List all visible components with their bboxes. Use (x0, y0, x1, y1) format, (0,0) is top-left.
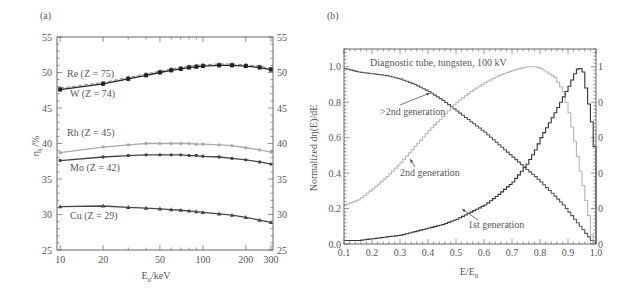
y-tick-label: 0.6 (329, 132, 342, 143)
right-y-tick-label: 40 (277, 138, 287, 149)
right-y-tick-label: 1 (598, 61, 603, 72)
y-tick-label: 25 (42, 245, 52, 256)
chart-title: Diagnostic tube, tungsten, 100 kV (370, 57, 507, 68)
series-annotation: 1st generation (468, 219, 524, 230)
x-tick-label: 0.8 (534, 247, 547, 258)
y-tick-label: 45 (42, 103, 52, 114)
y-tick-label: 0.4 (329, 168, 342, 179)
series-label: Re (Z = 75) (67, 68, 114, 80)
panel-a-label: (a) (40, 10, 51, 22)
x-tick-label: 100 (195, 254, 210, 265)
right-y-tick-label: 0 (598, 203, 603, 214)
right-y-tick-label: 0 (598, 168, 603, 179)
x-tick-label: 0.7 (506, 247, 519, 258)
y-tick-label: 1.0 (329, 61, 342, 72)
figure: (a) Re (Z = 75)W (Z = 74)Rh (Z = 45)Mo (… (0, 0, 629, 290)
y-tick-label: 55 (42, 32, 52, 43)
x-tick-label: 0.9 (562, 247, 575, 258)
series-line (344, 67, 596, 244)
x-tick-label: 10 (55, 254, 65, 265)
x-tick-label: 20 (98, 254, 108, 265)
series-label: Rh (Z = 45) (67, 127, 115, 139)
series-label: Mo (Z = 42) (70, 162, 120, 174)
x-tick-label: 300 (263, 254, 278, 265)
x-tick-label: 0.3 (394, 247, 407, 258)
x-tick-label: 1.0 (590, 247, 603, 258)
x-tick-label: 0.6 (478, 247, 491, 258)
y-tick-label: 0.2 (329, 203, 342, 214)
right-y-tick-label: 0 (598, 97, 603, 108)
series-line (60, 144, 271, 153)
series-line (344, 69, 596, 245)
x-tick-label: 50 (155, 254, 165, 265)
x-tick-label: 0.5 (450, 247, 463, 258)
y-tick-label: 50 (42, 67, 52, 78)
y-axis-title: Normalized dη(E)/dE (308, 105, 320, 192)
panel-b-chart: (b) >2nd generation2nd generation1st gen… (308, 10, 603, 280)
x-tick-label: 0.4 (422, 247, 435, 258)
y-tick-label: 30 (42, 209, 52, 220)
x-axis-title: E/E0 (460, 266, 479, 280)
x-tick-label: 0.2 (366, 247, 379, 258)
series-label: Cu (Z = 29) (70, 210, 118, 222)
right-y-tick-label: 0 (598, 132, 603, 143)
panel-a-chart: (a) Re (Z = 75)W (Z = 74)Rh (Z = 45)Mo (… (30, 10, 287, 284)
y-tick-label: 35 (42, 174, 52, 185)
panel-b-label: (b) (327, 10, 339, 22)
right-y-tick-label: 35 (277, 174, 287, 185)
series-annotation: >2nd generation (380, 106, 445, 117)
y-tick-label: 0.8 (329, 97, 342, 108)
series-line (344, 69, 596, 245)
right-y-tick-label: 55 (277, 32, 287, 43)
right-y-tick-label: 30 (277, 209, 287, 220)
right-y-tick-label: 25 (277, 245, 287, 256)
arrow-icon (400, 93, 430, 105)
series-label: W (Z = 74) (70, 88, 115, 100)
right-y-tick-label: 50 (277, 67, 287, 78)
x-tick-label: 0.1 (338, 247, 351, 258)
x-tick-label: 200 (238, 254, 253, 265)
series-annotation: 2nd generation (400, 167, 460, 178)
x-axis-title: E0/keV (141, 270, 171, 284)
right-y-tick-label: 45 (277, 103, 287, 114)
